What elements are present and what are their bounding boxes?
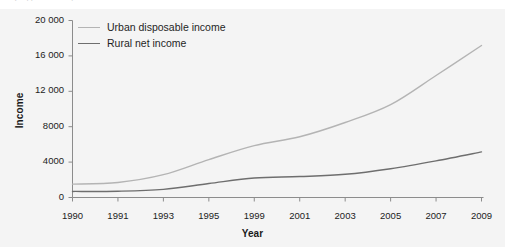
x-tick-label: 1995: [187, 210, 231, 221]
data-series-lines: [73, 46, 482, 192]
x-tick-label: 2007: [414, 210, 458, 221]
y-tick-label: 0: [10, 191, 64, 202]
x-tick-label: 1990: [51, 210, 95, 221]
x-tick-label: 2005: [369, 210, 413, 221]
x-axis-tick-labels: 1990199119931995199920012003200520072009: [0, 210, 505, 226]
x-tick-label: 2009: [460, 210, 504, 221]
chart-legend: Urban disposable incomeRural net income: [78, 19, 308, 51]
x-tick-label: 1999: [232, 210, 276, 221]
legend-line-swatch: [78, 27, 100, 28]
y-tick-label: 4000: [10, 155, 64, 166]
series-line-rural-net-income: [73, 152, 482, 192]
cropped-top-text-strip: (cropped text row): [0, 0, 505, 9]
chart-figure: (cropped text row) 04000800012 00016 000…: [0, 0, 505, 247]
y-tick-label: 20 000: [10, 14, 64, 25]
legend-item[interactable]: Urban disposable income: [78, 19, 308, 35]
legend-label: Urban disposable income: [107, 19, 225, 35]
legend-line-swatch: [78, 43, 100, 44]
x-tick-label: 1991: [96, 210, 140, 221]
x-axis-title: Year: [0, 228, 505, 239]
x-tick-label: 2001: [278, 210, 322, 221]
x-tick-label: 1993: [141, 210, 185, 221]
y-axis-title: Income: [14, 76, 25, 146]
legend-item[interactable]: Rural net income: [78, 35, 308, 51]
legend-label: Rural net income: [107, 35, 186, 51]
x-tick-label: 2003: [323, 210, 367, 221]
y-tick-label: 16 000: [10, 49, 64, 60]
plot-area: 04000800012 00016 00020 000 199019911993…: [0, 9, 505, 247]
